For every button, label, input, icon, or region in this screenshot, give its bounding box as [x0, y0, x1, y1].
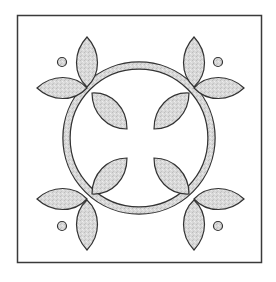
dot-bottom-right [214, 222, 223, 231]
dot-top-right [214, 58, 223, 67]
quilt-block-figure [0, 0, 276, 282]
dot-top-left [58, 58, 67, 67]
dot-bottom-left [58, 222, 67, 231]
square-frame [18, 16, 262, 263]
